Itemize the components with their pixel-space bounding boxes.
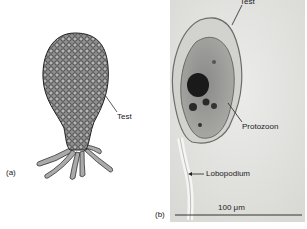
panel-letter-b: (b) xyxy=(155,210,165,219)
panel-letter-a: (a) xyxy=(6,168,16,177)
micrograph-image xyxy=(170,0,305,222)
test-shell xyxy=(43,33,108,150)
panel-a-drawing: Test (a) xyxy=(0,0,160,229)
callout-test-b: Test xyxy=(240,0,255,6)
callout-protozoon: Protozoon xyxy=(242,122,278,131)
panel-b-micrograph: Test Protozoon Lobopodium 100 μm xyxy=(170,0,305,222)
amoeba-drawing xyxy=(0,0,160,229)
figure: Test (a) xyxy=(0,0,307,229)
callout-lobopodium: Lobopodium xyxy=(206,169,250,178)
scale-bar-label: 100 μm xyxy=(218,203,245,212)
callout-test-a: Test xyxy=(117,112,132,121)
